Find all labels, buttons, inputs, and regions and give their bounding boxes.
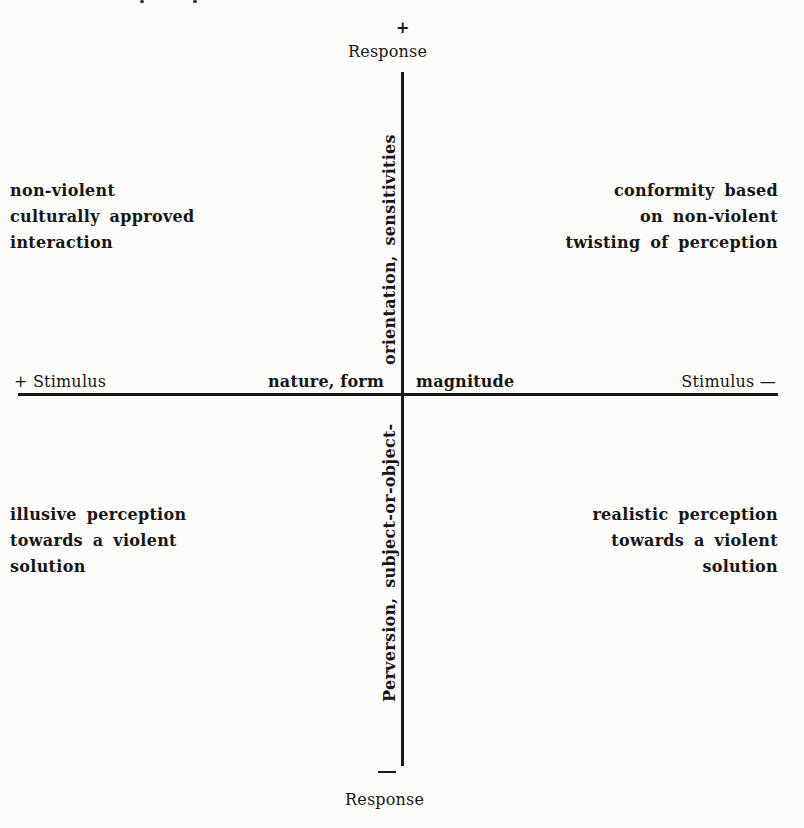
quadrant-top-left: non-violent culturally approved interact… [10,178,195,256]
quadrant-bottom-left-line: solution [10,554,186,580]
quadrant-top-right-line: twisting of perception [565,230,778,256]
quadrant-top-left-line: non-violent [10,178,195,204]
stimulus-negative-label: Stimulus — [681,372,776,391]
upper-axis-annotation: orientation, sensitivities [380,134,399,365]
nature-form-annotation: nature, form [268,372,384,391]
quadrant-bottom-left-line: towards a violent [10,528,186,554]
response-axis [401,72,404,766]
quadrant-bottom-right-line: realistic perception [592,502,778,528]
quadrant-bottom-left: illusive perception towards a violent so… [10,502,186,580]
quadrant-bottom-right: realistic perception towards a violent s… [592,502,778,580]
quadrant-bottom-right-line: towards a violent [592,528,778,554]
quadrant-bottom-right-line: solution [592,554,778,580]
response-top-label: Response [348,42,427,61]
cropped-text-fragment [193,0,197,3]
response-positive-sign: + [396,18,410,37]
magnitude-annotation: magnitude [416,372,514,391]
quadrant-bottom-left-line: illusive perception [10,502,186,528]
lower-axis-annotation: Perversion, subject-or-object- [380,423,399,702]
response-negative-sign [378,771,396,773]
quadrant-top-right: conformity based on non-violent twisting… [565,178,778,256]
quadrant-top-left-line: interaction [10,230,195,256]
quadrant-top-right-line: on non-violent [565,204,778,230]
stimulus-axis [18,393,778,396]
stimulus-positive-label: + Stimulus [14,372,106,391]
cropped-text-fragment [140,0,144,3]
quadrant-top-right-line: conformity based [565,178,778,204]
response-bottom-label: Response [345,790,424,809]
quadrant-top-left-line: culturally approved [10,204,195,230]
